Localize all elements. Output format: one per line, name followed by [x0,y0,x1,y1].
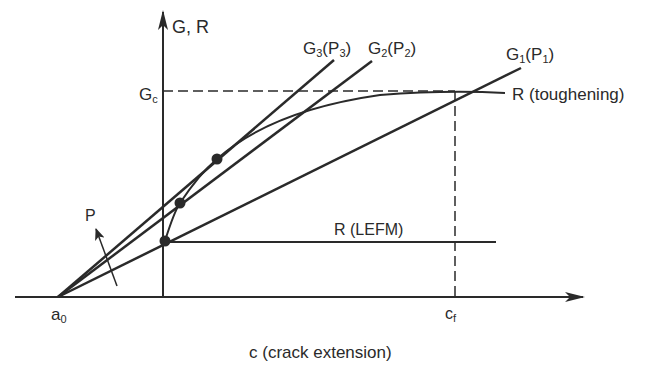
g3-line [58,60,334,297]
g1-sub: 1 [519,53,525,65]
r-toughening-label: R (toughening) [512,86,624,103]
g3-main: G [303,39,316,58]
g3-sub: 3 [316,47,322,59]
g2-main: G [368,39,381,58]
a0-sub: 0 [60,313,66,325]
gc-label: Gc [139,86,158,105]
point-g2-tangent [175,198,186,209]
gc-label-sub: c [152,93,158,105]
g2-p: P [393,39,404,58]
point-g3-tangent [212,154,223,165]
gc-label-main: G [139,85,152,104]
g1-label: G1(P1) [506,46,554,65]
g1-p-sub: 1 [542,53,548,65]
y-axis-label: G, R [172,18,209,36]
g1-main: G [506,45,519,64]
g1-p: P [531,45,542,64]
cf-main: c [445,305,453,322]
cf-label: cf [445,306,456,324]
load-p-label: P [85,208,96,224]
g3-p-sub: 3 [339,47,345,59]
r-lefm-label: R (LEFM) [334,222,403,238]
g2-label: G2(P2) [368,40,416,59]
cf-sub: f [453,312,456,324]
point-g1-lefm [160,236,171,247]
g1-line [58,68,521,297]
g2-line [58,61,372,297]
g2-sub: 2 [381,47,387,59]
g2-p-sub: 2 [404,47,410,59]
g3-p: P [328,39,339,58]
a0-label: a0 [51,306,67,325]
g3-label: G3(P3) [303,40,351,59]
x-axis-label: c (crack extension) [249,344,392,361]
